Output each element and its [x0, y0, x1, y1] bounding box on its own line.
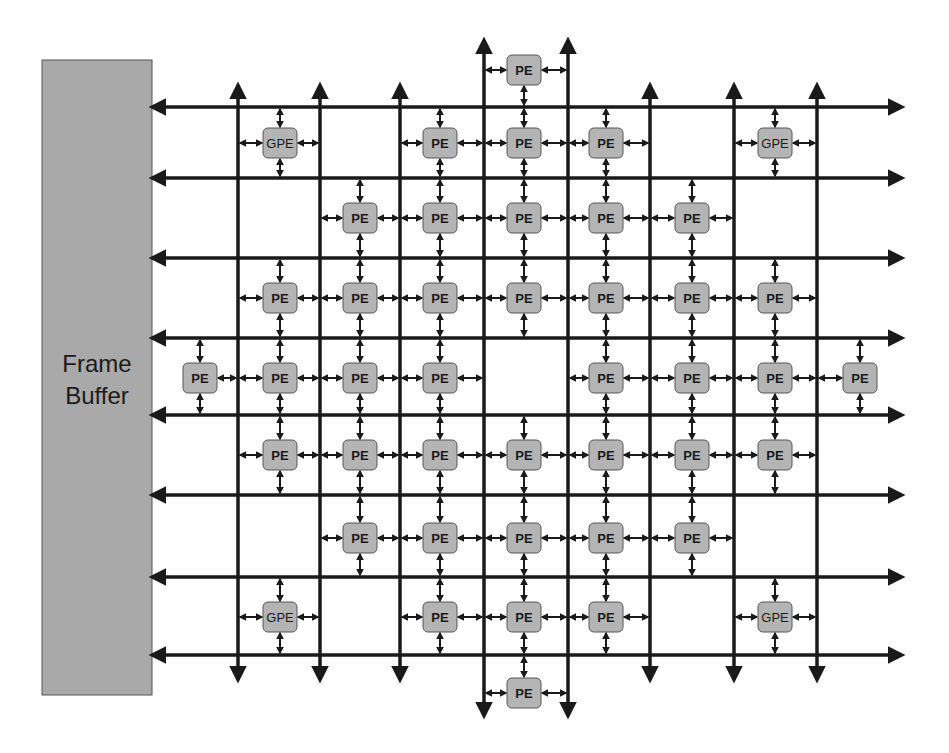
pe-node: PE — [343, 283, 377, 313]
pe-node: PE — [589, 523, 623, 553]
frame-buffer-block — [42, 60, 152, 695]
pe-node: PE — [263, 440, 297, 470]
pe-node: PE — [507, 283, 541, 313]
pe-node: PE — [263, 283, 297, 313]
pe-node: PE — [589, 363, 623, 393]
node-label: PE — [683, 448, 701, 463]
pe-node: PE — [675, 203, 709, 233]
pe-array-diagram: Frame Buffer PEGPEPEPEPEGPEPEPEPEPEPEPEP… — [0, 0, 949, 753]
pe-node: PE — [423, 602, 457, 632]
node-label: PE — [271, 448, 289, 463]
pe-node: PE — [423, 283, 457, 313]
node-label: PE — [597, 448, 615, 463]
node-label: PE — [851, 371, 869, 386]
pe-node: PE — [758, 283, 792, 313]
node-label: PE — [597, 371, 615, 386]
gpe-node: GPE — [263, 602, 297, 632]
node-label: PE — [597, 136, 615, 151]
node-label: PE — [515, 531, 533, 546]
pe-node: PE — [675, 363, 709, 393]
node-label: PE — [431, 448, 449, 463]
node-label: PE — [351, 448, 369, 463]
node-label: PE — [515, 610, 533, 625]
pe-node: PE — [507, 128, 541, 158]
processing-elements: PEGPEPEPEPEGPEPEPEPEPEPEPEPEPEPEPEPEPEPE… — [183, 55, 877, 708]
pe-node: PE — [423, 203, 457, 233]
node-label: PE — [515, 211, 533, 226]
node-label: PE — [431, 291, 449, 306]
gpe-node: GPE — [758, 602, 792, 632]
node-label: PE — [597, 531, 615, 546]
node-label: PE — [351, 531, 369, 546]
pe-node: PE — [507, 602, 541, 632]
pe-node: PE — [758, 440, 792, 470]
node-label: PE — [515, 136, 533, 151]
pe-node: PE — [423, 363, 457, 393]
pe-node: PE — [263, 363, 297, 393]
pe-node: PE — [423, 440, 457, 470]
node-label: PE — [766, 371, 784, 386]
pe-node: PE — [507, 203, 541, 233]
pe-node: PE — [589, 203, 623, 233]
pe-node: PE — [343, 523, 377, 553]
node-label: PE — [597, 610, 615, 625]
node-label: PE — [351, 371, 369, 386]
node-label: PE — [271, 291, 289, 306]
node-label: PE — [683, 531, 701, 546]
pe-node: PE — [507, 440, 541, 470]
pe-node: PE — [675, 523, 709, 553]
pe-node: PE — [589, 128, 623, 158]
node-label: PE — [515, 291, 533, 306]
pe-node: PE — [423, 523, 457, 553]
pe-node: PE — [758, 363, 792, 393]
node-label: PE — [431, 610, 449, 625]
pe-node: PE — [343, 203, 377, 233]
node-label: PE — [766, 448, 784, 463]
node-label: PE — [683, 211, 701, 226]
node-label: PE — [191, 371, 209, 386]
node-label: PE — [515, 448, 533, 463]
frame-buffer-label-line2: Buffer — [65, 382, 129, 409]
node-label: PE — [431, 371, 449, 386]
node-label: PE — [351, 291, 369, 306]
node-label: PE — [431, 211, 449, 226]
node-label: PE — [515, 63, 533, 78]
node-label: PE — [766, 291, 784, 306]
pe-node: PE — [423, 128, 457, 158]
node-label: PE — [597, 211, 615, 226]
gpe-node: GPE — [758, 128, 792, 158]
node-label: PE — [431, 136, 449, 151]
pe-node: PE — [507, 55, 541, 85]
pe-node: PE — [507, 523, 541, 553]
pe-node: PE — [343, 363, 377, 393]
node-label: PE — [597, 291, 615, 306]
pe-node: PE — [843, 363, 877, 393]
node-label: PE — [271, 371, 289, 386]
pe-node: PE — [675, 283, 709, 313]
pe-node: PE — [343, 440, 377, 470]
node-label: PE — [515, 686, 533, 701]
pe-node: PE — [675, 440, 709, 470]
node-label: GPE — [266, 610, 294, 625]
node-label: PE — [683, 291, 701, 306]
node-label: GPE — [266, 136, 294, 151]
pe-node: PE — [589, 283, 623, 313]
gpe-node: GPE — [263, 128, 297, 158]
node-label: PE — [431, 531, 449, 546]
frame-buffer-label-line1: Frame — [62, 350, 131, 377]
node-label: PE — [351, 211, 369, 226]
pe-node: PE — [183, 363, 217, 393]
node-label: GPE — [761, 610, 789, 625]
pe-node: PE — [589, 602, 623, 632]
node-label: PE — [683, 371, 701, 386]
node-label: GPE — [761, 136, 789, 151]
pe-node: PE — [589, 440, 623, 470]
pe-node: PE — [507, 678, 541, 708]
